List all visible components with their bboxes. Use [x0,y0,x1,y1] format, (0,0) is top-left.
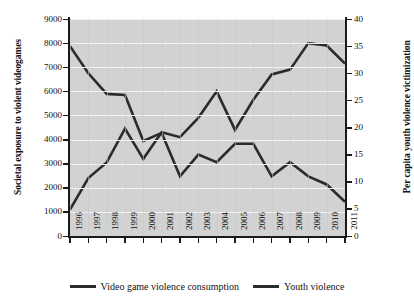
gridline [70,67,345,68]
y-axis-right-tick [346,100,352,102]
x-axis-tick [106,238,108,243]
x-axis-tick [143,238,145,243]
x-axis-tick [326,238,328,243]
y-axis-left-tick-label: 0 [22,232,62,241]
gridline [70,43,345,44]
plot-area [70,19,345,236]
x-axis-tick-label: 1998 [110,212,120,246]
vertical-gridline [327,19,328,236]
x-axis-tick [161,238,163,243]
chart-legend: Video game violence consumptionYouth vio… [0,281,414,292]
x-axis-tick-label: 2007 [275,212,285,246]
x-axis-tick [198,238,200,243]
legend-label: Youth violence [284,281,344,292]
y-axis-right-tick-label: 35 [354,42,384,51]
y-axis-left-tick-label: 2000 [22,183,62,192]
x-axis-tick-label: 2008 [294,212,304,246]
legend-label: Video game violence consumption [101,281,240,292]
series-line [70,46,345,202]
legend-item[interactable]: Video game violence consumption [70,281,240,292]
x-axis-tick-label: 2009 [312,212,322,246]
y-axis-left-spine [68,17,70,238]
vertical-gridline [162,19,163,236]
y-axis-right-tick-label: 25 [354,96,384,105]
legend-line-icon [253,285,279,288]
x-axis-tick [124,238,126,243]
vertical-gridline [198,19,199,236]
y-axis-left-tick-label: 5000 [22,111,62,120]
vertical-gridline [217,19,218,236]
vertical-gridline [88,19,89,236]
y-axis-right-title: Per capita youth violence victimization [402,7,412,227]
y-axis-left-tick-label: 8000 [22,39,62,48]
y-axis-left-tick [63,19,69,21]
y-axis-right-tick-label: 40 [354,15,384,24]
y-axis-left-tick [63,211,69,213]
x-axis-tick [179,238,181,243]
vertical-gridline [253,19,254,236]
y-axis-left-tick [63,187,69,189]
y-axis-right-tick [346,19,352,21]
x-axis-tick-label: 2000 [147,212,157,246]
legend-item[interactable]: Youth violence [253,281,344,292]
x-axis-tick-label: 2005 [239,212,249,246]
y-axis-left-tick-label: 9000 [22,15,62,24]
x-axis-tick-label: 1997 [92,212,102,246]
vertical-gridline [235,19,236,236]
chart-container: Societal exposure to violent videogames … [0,0,414,299]
gridline [70,91,345,92]
x-axis-tick-label: 2004 [220,212,230,246]
y-axis-left-tick [63,139,69,141]
vertical-gridline [143,19,144,236]
x-axis-tick [69,238,71,243]
y-axis-left-tick [63,91,69,93]
vertical-gridline [107,19,108,236]
y-axis-left-tick [63,163,69,165]
gridline [70,19,345,20]
y-axis-left-tick [63,43,69,45]
y-axis-right-tick-label: 15 [354,150,384,159]
y-axis-right-tick [346,73,352,75]
y-axis-right-tick [346,154,352,156]
x-axis-tick-label: 2003 [202,212,212,246]
y-axis-left-tick-label: 7000 [22,63,62,72]
x-axis-tick-label: 2001 [165,212,175,246]
y-axis-left-tick [63,236,69,238]
y-axis-right-tick-label: 20 [354,123,384,132]
x-axis-tick [308,238,310,243]
x-axis-tick-label: 2010 [330,212,340,246]
x-axis-tick [234,238,236,243]
data-series-layer [70,19,345,236]
y-axis-right-tick [346,127,352,129]
vertical-gridline [308,19,309,236]
y-axis-right-tick-label: 10 [354,177,384,186]
y-axis-left-tick [63,115,69,117]
x-axis-tick-label: 2006 [257,212,267,246]
vertical-gridline [290,19,291,236]
y-axis-left-tick-label: 3000 [22,159,62,168]
x-axis-tick-label: 1996 [74,212,84,246]
vertical-gridline [125,19,126,236]
x-axis-tick [216,238,218,243]
vertical-gridline [272,19,273,236]
gridline [70,164,345,165]
x-axis-tick [88,238,90,243]
gridline [70,140,345,141]
y-axis-right-tick [346,46,352,48]
x-axis-tick-label: 2002 [184,212,194,246]
y-axis-right-tick-label: 30 [354,69,384,78]
gridline [70,115,345,116]
vertical-gridline [180,19,181,236]
y-axis-right-tick [346,208,352,210]
y-axis-right-tick [346,181,352,183]
legend-line-icon [70,285,96,288]
y-axis-left-tick-label: 1000 [22,207,62,216]
x-axis-tick [289,238,291,243]
vertical-gridline [70,19,71,236]
y-axis-left-tick [63,67,69,69]
x-axis-tick [344,238,346,243]
x-axis-tick [271,238,273,243]
y-axis-left-tick-label: 6000 [22,87,62,96]
x-axis-tick-label: 1999 [129,212,139,246]
gridline [70,188,345,189]
